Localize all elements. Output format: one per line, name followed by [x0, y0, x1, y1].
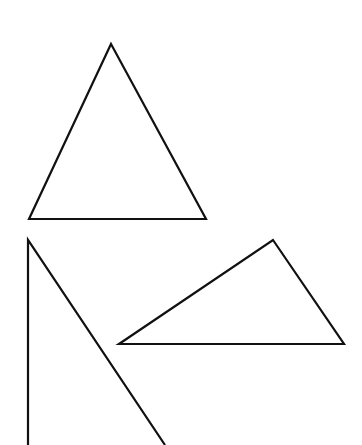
drawing-canvas	[0, 0, 362, 445]
shapes-svg	[0, 0, 362, 445]
canvas-background	[0, 0, 362, 445]
